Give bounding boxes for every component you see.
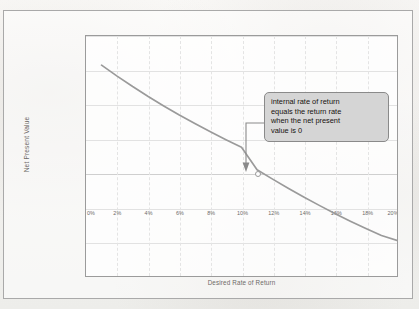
npv-curve bbox=[86, 36, 397, 276]
x-axis-tick-label: 6% bbox=[176, 210, 184, 216]
y-axis-title: Net Present Value bbox=[19, 97, 33, 148]
x-gridline bbox=[336, 36, 337, 276]
callout-line-4: value is 0 bbox=[271, 126, 383, 136]
y-axis-title-text: Net Present Value bbox=[23, 95, 30, 195]
callout-line-1: internal rate of return bbox=[271, 97, 383, 107]
y-gridline bbox=[86, 71, 397, 72]
x-axis-tick-label: 0% bbox=[87, 210, 95, 216]
y-gridline bbox=[86, 243, 397, 244]
x-axis-tick-label: 10% bbox=[237, 210, 248, 216]
callout-line-3: when the net present bbox=[271, 116, 383, 126]
y-gridline bbox=[86, 174, 397, 175]
x-gridline bbox=[211, 36, 212, 276]
irr-callout: internal rate of return equals the retur… bbox=[264, 92, 389, 142]
x-axis-tick-label: 20% bbox=[387, 210, 398, 216]
x-gridline bbox=[149, 36, 150, 276]
x-gridline bbox=[117, 36, 118, 276]
x-gridline bbox=[305, 36, 306, 276]
x-gridline bbox=[274, 36, 275, 276]
x-gridline bbox=[243, 36, 244, 276]
chart-page: Net Present Value $80,000.00$60,000.00$4… bbox=[0, 0, 419, 309]
callout-line-2: equals the return rate bbox=[271, 107, 383, 117]
y-gridline bbox=[86, 36, 397, 37]
x-axis-tick-label: 16% bbox=[331, 210, 342, 216]
x-gridline bbox=[368, 36, 369, 276]
plot-area: $80,000.00$60,000.00$40,000.00$20,000.00… bbox=[85, 35, 398, 277]
x-axis-tick-label: 18% bbox=[362, 210, 373, 216]
x-axis-tick-label: 2% bbox=[113, 210, 121, 216]
x-axis-tick-label: 14% bbox=[300, 210, 311, 216]
x-axis-tick-label: 4% bbox=[145, 210, 153, 216]
x-axis-title: Desired Rate of Return bbox=[85, 279, 398, 286]
x-axis-tick-label: 8% bbox=[207, 210, 215, 216]
zero-crossing-marker bbox=[255, 171, 261, 177]
x-axis-tick-label: 12% bbox=[268, 210, 279, 216]
x-gridline bbox=[180, 36, 181, 276]
